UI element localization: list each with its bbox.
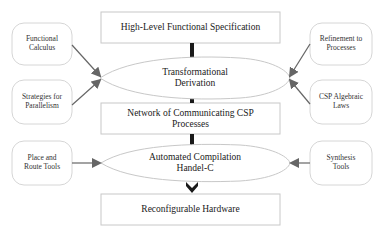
spec-label: High-Level Functional Specification [101, 12, 280, 43]
connector-network-to-compilation [190, 134, 194, 145]
arrow-strategies [72, 80, 100, 105]
spec-text: High-Level Functional Specification [121, 22, 260, 33]
functional-calculus-label: Functional Calculus [12, 23, 72, 65]
arrow-csp-algebraic [290, 80, 310, 104]
arrow-compilation-to-hardware [186, 182, 198, 193]
derivation-label: Transformational Derivation [110, 60, 280, 96]
refinement-label: Refinement to Processes [310, 23, 372, 65]
synthesis-line2: Tools [333, 163, 350, 172]
strategies-line2: Parallelism [25, 102, 59, 111]
synthesis-label: Synthesis Tools [310, 141, 372, 185]
csp-algebraic-line2: Laws [333, 102, 349, 111]
hardware-text: Reconfigurable Hardware [141, 204, 239, 215]
compilation-line2: Handel-C [177, 163, 214, 174]
compilation-label: Automated Compilation Handel-C [110, 146, 280, 180]
network-line2: Processes [172, 119, 209, 130]
network-label: Network of Communicating CSP Processes [101, 103, 280, 134]
place-route-line2: Route Tools [24, 163, 60, 172]
refinement-line2: Processes [326, 44, 355, 53]
hardware-label: Reconfigurable Hardware [101, 194, 280, 225]
compilation-line1: Automated Compilation [149, 152, 241, 163]
network-line1: Network of Communicating CSP [127, 108, 253, 119]
strategies-label: Strategies for Parallelism [12, 80, 72, 124]
csp-algebraic-label: CSP Algebraic Laws [310, 80, 372, 124]
functional-calculus-line2: Calculus [29, 44, 55, 53]
arrow-refinement [290, 44, 310, 76]
derivation-line2: Derivation [175, 78, 216, 89]
arrow-functional-calculus [72, 45, 100, 76]
derivation-line1: Transformational [162, 67, 228, 78]
place-route-label: Place and Route Tools [12, 141, 72, 185]
